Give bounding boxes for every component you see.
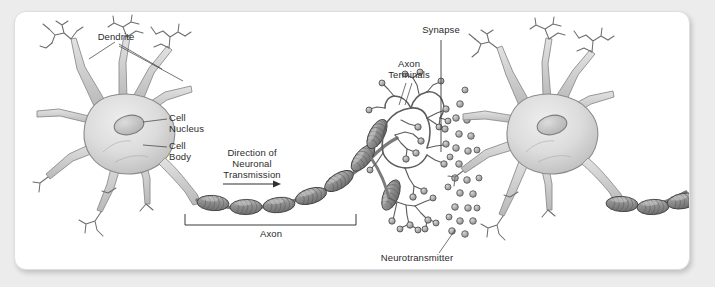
direction-arrow — [223, 180, 281, 187]
direction-label-line1: Direction of — [223, 147, 280, 158]
cell-nucleus-label-line1: Cell — [169, 112, 204, 123]
cell-body-label-line1: Cell — [169, 140, 191, 151]
synapse-label: Synapse — [422, 24, 460, 35]
axon-bracket — [185, 214, 356, 225]
axon-label: Axon — [260, 228, 282, 239]
dendrite-leader-1 — [89, 42, 115, 59]
axon-terminals-label-line2: Terminals — [388, 69, 430, 80]
direction-of-neuronal-transmission-label: Direction of Neuronal Transmission — [223, 147, 280, 180]
axon-terminal-arbor — [370, 73, 447, 229]
figure-card: Dendrite Cell Nucleus Cell Body Directio… — [14, 11, 690, 270]
axon-terminals-leader-1 — [399, 83, 406, 105]
neuron-synapse-illustration — [15, 12, 690, 270]
neurotransmitter-label: Neurotransmitter — [381, 252, 453, 263]
axon-terminals-label-line1: Axon — [388, 58, 430, 69]
axon-terminals-leader-2 — [405, 83, 412, 105]
right-neuron-myelin-chain — [606, 179, 690, 215]
direction-label-line3: Transmission — [223, 169, 280, 180]
axon-terminals-label: Axon Terminals — [388, 58, 430, 80]
right-neuron — [448, 17, 690, 240]
cell-nucleus-label-line2: Nucleus — [169, 123, 204, 134]
left-neuron-axon-hillock — [159, 158, 201, 205]
cell-body-label: Cell Body — [169, 140, 191, 162]
direction-label-line2: Neuronal — [223, 158, 280, 169]
dendrite-label: Dendrite — [98, 31, 135, 42]
figure-canvas: Dendrite Cell Nucleus Cell Body Directio… — [0, 0, 715, 287]
cell-body-label-line2: Body — [169, 151, 191, 162]
neurotransmitter-leader — [439, 230, 455, 253]
cell-nucleus-label: Cell Nucleus — [169, 112, 204, 134]
